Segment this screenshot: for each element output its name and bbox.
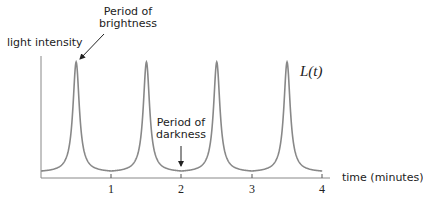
darkness-annotation: Period of darkness <box>146 117 216 141</box>
brightness-annotation-line2: brightness <box>93 18 163 30</box>
series-label: L(t) <box>300 63 323 80</box>
brightness-annotation: Period of brightness <box>93 6 163 30</box>
y-axis-label: light intensity <box>7 37 83 49</box>
x-ticks <box>111 174 322 178</box>
darkness-annotation-line2: darkness <box>146 129 216 141</box>
x-tick-label-4: 4 <box>319 182 325 197</box>
x-tick-label-1: 1 <box>108 182 114 197</box>
x-tick-label-2: 2 <box>178 182 184 197</box>
x-axis-label: time (minutes) <box>342 172 423 184</box>
brightness-arrow <box>80 34 104 59</box>
x-tick-label-3: 3 <box>249 182 255 197</box>
